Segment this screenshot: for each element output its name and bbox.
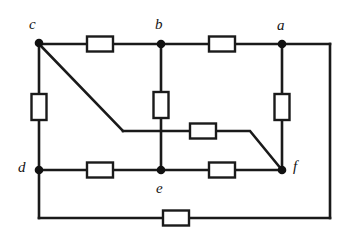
node-dot-b xyxy=(157,40,166,49)
circuit-diagram: cbadef xyxy=(0,0,346,246)
resistor-symbol xyxy=(275,94,290,120)
node-label-b: b xyxy=(155,17,163,32)
wire-segment xyxy=(39,44,123,131)
resistor-symbol xyxy=(209,163,235,178)
resistor-symbol xyxy=(87,37,113,52)
resistor-symbol xyxy=(163,211,189,226)
node-label-a: a xyxy=(277,18,285,33)
resistor-symbol xyxy=(87,163,113,178)
node-dot-d xyxy=(35,166,44,175)
node-dot-a xyxy=(278,40,287,49)
node-dot-e xyxy=(157,166,166,175)
resistor-symbol xyxy=(209,37,235,52)
node-dot-c xyxy=(35,39,44,48)
resistor-symbol xyxy=(154,92,169,118)
node-label-f: f xyxy=(293,159,297,174)
resistor-symbol xyxy=(190,124,216,139)
circuit-schematic-canvas xyxy=(0,0,346,246)
node-label-c: c xyxy=(29,17,36,32)
wire-layer xyxy=(39,44,330,218)
node-label-d: d xyxy=(18,160,26,175)
node-dot-f xyxy=(278,166,287,175)
resistor-symbol xyxy=(32,94,47,120)
node-label-e: e xyxy=(156,181,163,196)
